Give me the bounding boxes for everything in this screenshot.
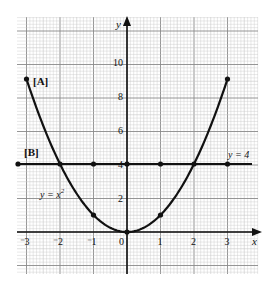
data-point [158,212,163,217]
data-point [225,161,230,166]
y-axis-label: y [115,18,121,30]
x-tick-label: ⁻3 [20,236,30,247]
curve-a-label: [A] [33,75,48,87]
x-tick-label: 0 [119,236,124,247]
y-tick-label: 10 [113,57,123,68]
data-point [91,212,96,217]
data-point [124,229,129,234]
data-point [124,161,129,166]
data-point [15,161,20,166]
line-b-label: [B] [24,146,39,158]
x-tick-label: 3 [225,236,230,247]
x-tick-label: ⁻2 [53,236,63,247]
x-tick-label: 1 [158,236,163,247]
data-point [158,161,163,166]
y-tick-label: 4 [118,159,123,170]
curve-equation-text: y = x [39,189,61,200]
y-tick-label: 6 [118,125,123,136]
data-point [91,161,96,166]
x-tick-label: ⁻1 [87,236,97,247]
y-tick-label: 2 [118,193,123,204]
line-equation-label: y = 4 [227,149,249,160]
graph-figure: [A] [B] y = x2 y = 4 x y ⁻3⁻2⁻1012324681… [0,0,272,287]
y-tick-label: 8 [118,91,123,102]
data-point [225,76,230,81]
data-point [191,161,196,166]
x-tick-label: 2 [191,236,196,247]
data-point [24,76,29,81]
x-axis-label: x [251,235,257,247]
curve-equation-exponent: 2 [61,187,65,195]
data-point [57,161,62,166]
